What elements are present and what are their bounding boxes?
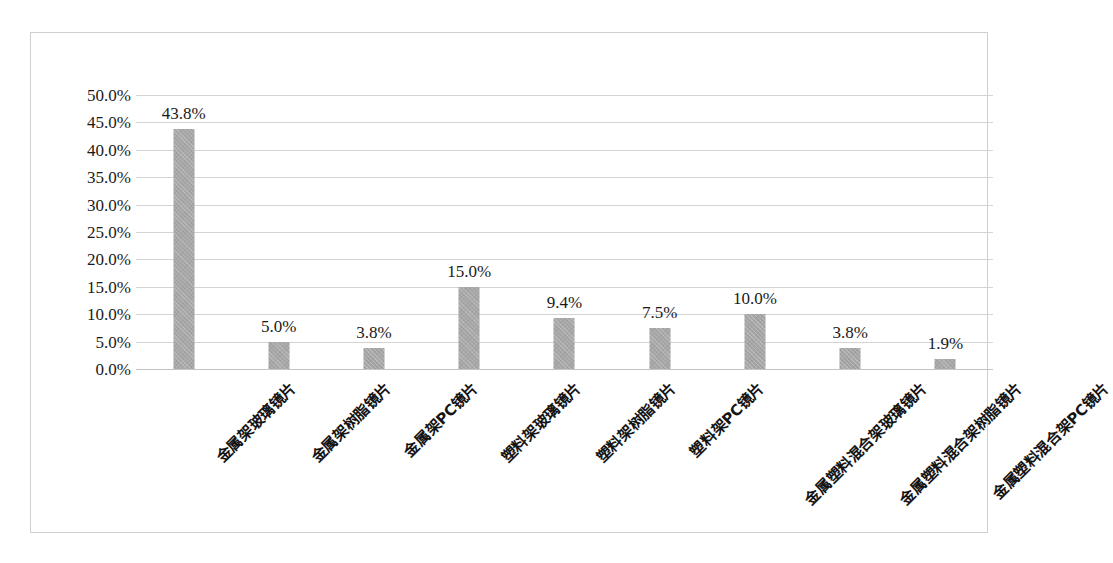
bar-slot: 10.0% [707,95,802,369]
bar-value-label: 9.4% [547,294,582,311]
y-axis-tick-label: 10.0% [61,306,131,323]
x-axis: 金属架玻璃镜片金属架树脂镜片金属架PC镜片塑料架玻璃镜片塑料架树脂镜片塑料架PC… [136,373,993,543]
bar[interactable] [459,287,480,369]
bar-value-label: 1.9% [928,335,963,352]
x-axis-tick-slot: 金属塑料混合架PC镜片 [898,373,993,543]
x-axis-tick-slot: 塑料架树脂镜片 [517,373,612,543]
bar-slot: 9.4% [517,95,612,369]
bar[interactable] [840,348,861,369]
x-axis-tick-slot: 金属架玻璃镜片 [136,373,231,543]
bar[interactable] [649,328,670,369]
bar[interactable] [364,348,385,369]
bar-value-label: 3.8% [356,324,391,341]
bar-value-label: 7.5% [642,304,677,321]
bar-slot: 3.8% [803,95,898,369]
y-axis-tick-label: 35.0% [61,169,131,186]
y-axis-tick-label: 45.0% [61,114,131,131]
y-axis-tick-label: 0.0% [61,361,131,378]
bar-value-label: 3.8% [832,324,867,341]
bar-slot: 3.8% [326,95,421,369]
bar-slot: 1.9% [898,95,993,369]
y-axis-tick-label: 20.0% [61,251,131,268]
y-axis-tick-label: 30.0% [61,196,131,213]
x-axis-tick-slot: 金属架PC镜片 [326,373,421,543]
y-axis-tick-label: 5.0% [61,333,131,350]
bar[interactable] [744,314,765,369]
y-axis-tick-label: 25.0% [61,224,131,241]
chart-frame: 50.0%45.0%40.0%35.0%30.0%25.0%20.0%15.0%… [30,32,988,533]
bar[interactable] [935,359,956,369]
y-axis-tick-label: 15.0% [61,278,131,295]
x-axis-tick-slot: 金属架树脂镜片 [231,373,326,543]
bar-value-label: 43.8% [162,105,206,122]
bar-slot: 7.5% [612,95,707,369]
bar-slot: 43.8% [136,95,231,369]
y-axis-tick-label: 50.0% [61,87,131,104]
plot-area: 43.8%5.0%3.8%15.0%9.4%7.5%10.0%3.8%1.9% [136,95,993,369]
bar-slot: 15.0% [422,95,517,369]
bar-value-label: 15.0% [447,263,491,280]
y-axis: 50.0%45.0%40.0%35.0%30.0%25.0%20.0%15.0%… [59,95,131,369]
x-axis-tick-slot: 塑料架玻璃镜片 [422,373,517,543]
x-axis-tick-slot: 塑料架PC镜片 [612,373,707,543]
y-axis-tick-label: 40.0% [61,141,131,158]
bar-slot: 5.0% [231,95,326,369]
bar[interactable] [554,318,575,370]
bar[interactable] [268,342,289,369]
bar-value-label: 10.0% [733,290,777,307]
x-axis-tick-slot: 金属塑料混合架玻璃镜片 [707,373,802,543]
x-axis-tick-slot: 金属塑料混合架树脂镜片 [803,373,898,543]
axis-baseline [136,369,993,370]
bar[interactable] [173,129,194,369]
bar-value-label: 5.0% [261,318,296,335]
